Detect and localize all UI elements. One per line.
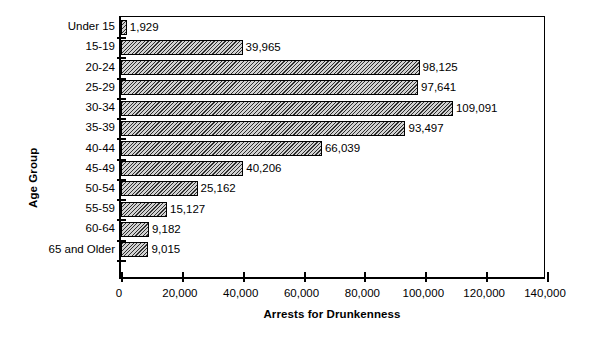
x-axis-tick xyxy=(121,272,123,282)
bar-value-label: 15,127 xyxy=(170,203,205,216)
bar xyxy=(121,181,198,196)
x-axis-title: Arrests for Drunkenness xyxy=(119,308,545,320)
bar-value-label: 97,641 xyxy=(421,81,456,94)
x-axis-tick-label: 60,000 xyxy=(284,286,319,300)
bar-value-label: 109,091 xyxy=(456,102,498,115)
bar-value-label: 98,125 xyxy=(423,61,458,74)
y-axis-tick-label: 20-24 xyxy=(0,61,115,73)
x-axis-tick xyxy=(486,272,488,282)
y-axis-tick-label: Under 15 xyxy=(0,20,115,32)
y-axis-tick-labels: Under 1515-1920-2425-2930-3435-3940-4445… xyxy=(0,16,115,279)
bar xyxy=(121,80,418,95)
bar xyxy=(121,242,148,257)
x-axis-tick-label: 40,000 xyxy=(223,286,258,300)
x-axis-tick xyxy=(304,272,306,282)
y-axis-tick-label: 65 and Older xyxy=(0,243,115,255)
x-axis-tick xyxy=(182,272,184,282)
bar-value-label: 40,206 xyxy=(246,162,281,175)
bar-value-label: 9,015 xyxy=(151,243,180,256)
y-axis-tick-label: 55-59 xyxy=(0,202,115,214)
bar xyxy=(121,222,149,237)
x-axis-tick xyxy=(425,272,427,282)
bar xyxy=(121,141,322,156)
y-axis-tick xyxy=(117,260,126,262)
bar-value-label: 66,039 xyxy=(325,142,360,155)
x-axis-tick-label: 80,000 xyxy=(345,286,380,300)
y-axis-tick-label: 30-34 xyxy=(0,101,115,113)
x-axis-tick xyxy=(243,272,245,282)
bar xyxy=(121,161,243,176)
x-axis-tick xyxy=(547,272,549,282)
y-axis-tick-label: 35-39 xyxy=(0,121,115,133)
bar-chart: Age Group Under 1515-1920-2425-2930-3435… xyxy=(0,0,594,339)
x-axis-tick-label: 140,000 xyxy=(524,286,566,300)
x-axis-tick-label: 20,000 xyxy=(162,286,197,300)
y-axis-tick-label: 15-19 xyxy=(0,40,115,52)
x-axis-tick-label: 100,000 xyxy=(402,286,444,300)
bar xyxy=(121,40,243,55)
bar xyxy=(121,202,167,217)
bar xyxy=(121,20,127,35)
x-axis-tick-label: 120,000 xyxy=(463,286,505,300)
bar xyxy=(121,60,420,75)
x-axis-tick-labels: 020,00040,00060,00080,000100,000120,0001… xyxy=(119,286,545,302)
plot-area: 1,92939,96598,12597,641109,09193,49766,0… xyxy=(119,16,545,279)
bar xyxy=(121,101,453,116)
y-axis-tick-label: 40-44 xyxy=(0,142,115,154)
bar-value-label: 39,965 xyxy=(246,41,281,54)
bar-value-label: 9,182 xyxy=(152,223,181,236)
y-axis-tick-label: 60-64 xyxy=(0,222,115,234)
y-axis-tick-label: 50-54 xyxy=(0,182,115,194)
y-axis-tick-label: 25-29 xyxy=(0,81,115,93)
bar-value-label: 25,162 xyxy=(201,182,236,195)
bar-value-label: 93,497 xyxy=(408,122,443,135)
bar-value-label: 1,929 xyxy=(130,21,159,34)
x-axis-tick xyxy=(364,272,366,282)
y-axis-tick-label: 45-49 xyxy=(0,162,115,174)
x-axis-tick-label: 0 xyxy=(116,286,122,300)
bar xyxy=(121,121,405,136)
